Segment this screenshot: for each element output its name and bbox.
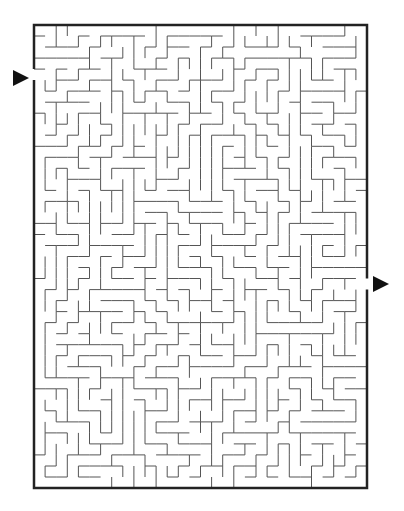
start-arrow-icon: [13, 70, 29, 86]
maze-walls: [34, 25, 367, 488]
end-arrow-icon: [373, 276, 389, 292]
maze-grid: [0, 0, 404, 511]
